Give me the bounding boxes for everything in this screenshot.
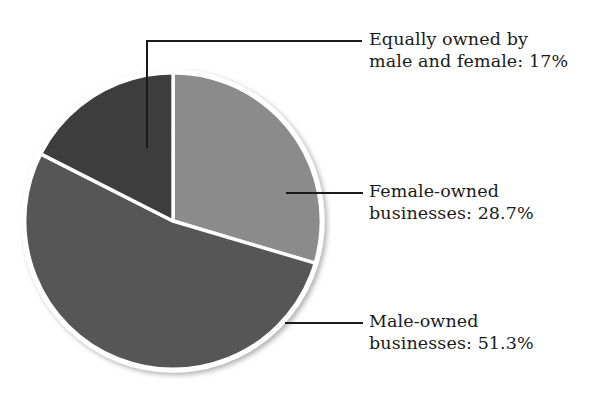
label-male-owned-line2: businesses: 51.3%	[369, 332, 534, 354]
leader-line-equally-owned-horizontal	[146, 40, 362, 42]
pie-slices-group	[23, 71, 323, 371]
pie-chart-figure: Equally owned by male and female: 17% Fe…	[0, 0, 604, 420]
leader-line-male-owned	[285, 322, 363, 324]
label-female-owned-line1: Female-owned	[369, 180, 534, 202]
leader-line-female-owned	[286, 192, 363, 194]
pie-svg	[21, 69, 331, 379]
pie-chart-graphic	[21, 69, 331, 379]
label-equally-owned-line1: Equally owned by	[369, 28, 568, 50]
leader-line-equally-owned-vertical	[146, 40, 148, 148]
label-male-owned: Male-owned businesses: 51.3%	[369, 310, 534, 354]
label-equally-owned: Equally owned by male and female: 17%	[369, 28, 568, 72]
label-female-owned: Female-owned businesses: 28.7%	[369, 180, 534, 224]
label-equally-owned-line2: male and female: 17%	[369, 50, 568, 72]
label-female-owned-line2: businesses: 28.7%	[369, 202, 534, 224]
label-male-owned-line1: Male-owned	[369, 310, 534, 332]
